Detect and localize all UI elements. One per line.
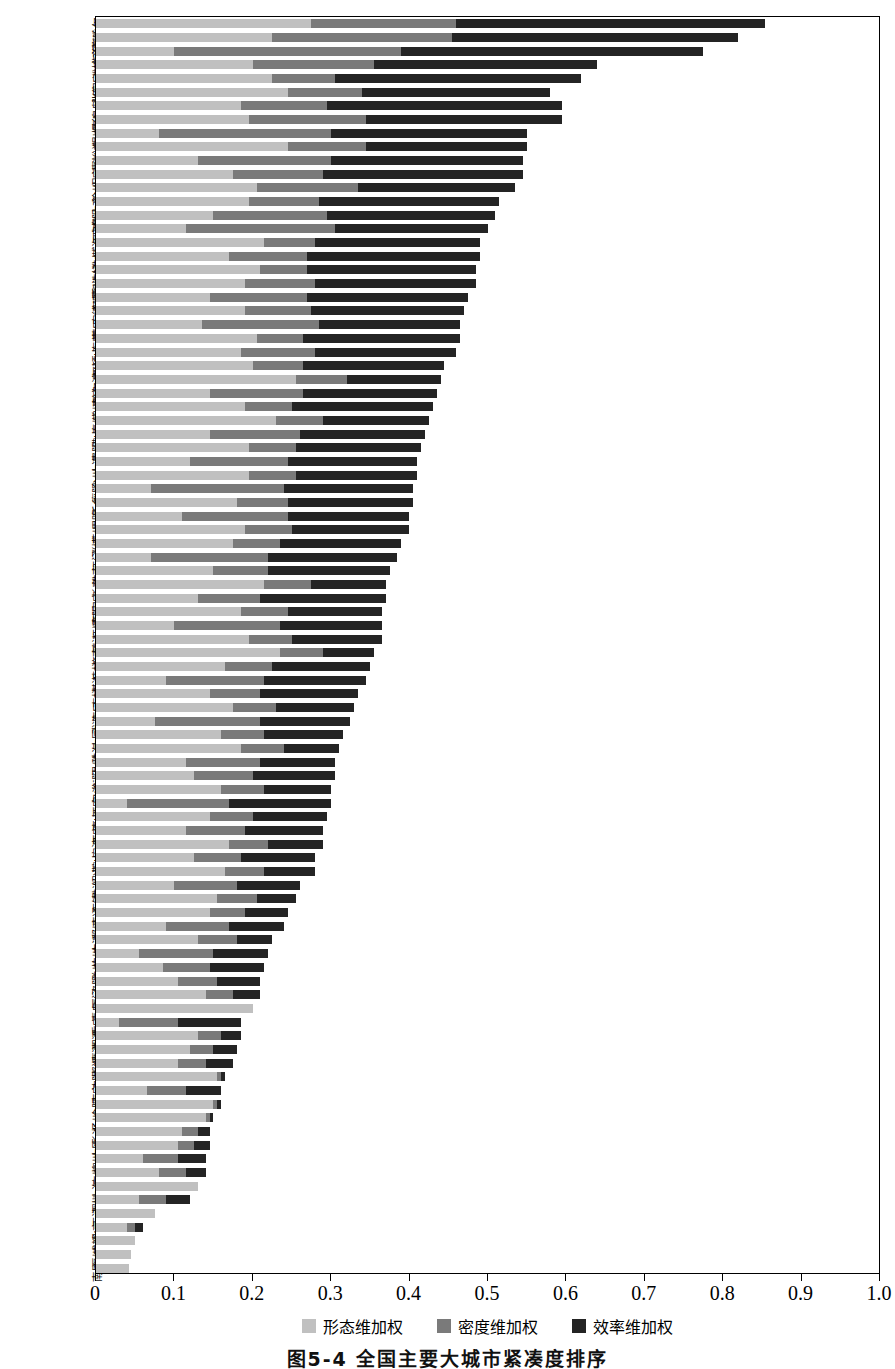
bar-segment-morphology (96, 785, 221, 794)
bar-segment-density (163, 963, 210, 972)
bar-row (96, 33, 738, 42)
bar-segment-morphology (96, 594, 198, 603)
bar-segment-morphology (96, 744, 241, 753)
legend-item: 效率维加权 (572, 1314, 673, 1338)
bar-segment-efficiency (213, 949, 268, 958)
bar-segment-morphology (96, 881, 174, 890)
bar-segment-morphology (96, 607, 241, 616)
bar-segment-density (198, 1031, 221, 1040)
bar-segment-morphology (96, 703, 233, 712)
bar-segment-efficiency (253, 771, 335, 780)
bar-row (96, 1100, 221, 1109)
bar-segment-density (288, 142, 366, 151)
x-axis-tick-label: 0.7 (631, 1282, 656, 1304)
bar-segment-efficiency (229, 799, 331, 808)
x-axis-tick (801, 1274, 802, 1281)
legend-item: 形态维加权 (302, 1314, 403, 1338)
bar-segment-efficiency (335, 74, 582, 83)
legend-label: 密度维加权 (458, 1314, 538, 1338)
bar-row (96, 730, 343, 739)
bar-row (96, 1045, 237, 1054)
bar-segment-density (166, 922, 229, 931)
bar-segment-efficiency (288, 512, 409, 521)
bar-row (96, 416, 429, 425)
bar-segment-morphology (96, 840, 229, 849)
bar-segment-efficiency (186, 1086, 221, 1095)
bar-segment-efficiency (323, 416, 429, 425)
bar-row (96, 580, 386, 589)
bar-segment-density (155, 717, 261, 726)
bar-row (96, 525, 409, 534)
bar-row (96, 74, 581, 83)
bar-segment-morphology (96, 648, 280, 657)
bar-segment-efficiency (284, 744, 339, 753)
bar-segment-density (272, 33, 452, 42)
bar-row (96, 867, 315, 876)
bar-segment-density (127, 799, 229, 808)
bar-segment-efficiency (260, 758, 334, 767)
bar-segment-morphology (96, 1100, 213, 1109)
bars-layer (96, 17, 879, 1273)
bar-segment-efficiency (221, 1031, 241, 1040)
x-axis-tick-label: 0.6 (553, 1282, 578, 1304)
bar-segment-density (264, 238, 315, 247)
bar-segment-density (198, 156, 331, 165)
bar-segment-morphology (96, 730, 221, 739)
bar-segment-efficiency (268, 566, 389, 575)
bar-segment-density (221, 730, 264, 739)
bar-segment-density (178, 977, 217, 986)
bar-segment-morphology (96, 580, 264, 589)
bar-segment-density (233, 170, 323, 179)
bar-segment-density (151, 553, 268, 562)
bar-segment-morphology (96, 19, 311, 28)
bar-segment-density (202, 320, 319, 329)
bar-segment-density (127, 1223, 135, 1232)
bar-row (96, 1018, 241, 1027)
bar-segment-morphology (96, 183, 257, 192)
bar-segment-efficiency (335, 224, 488, 233)
bar-row (96, 1168, 206, 1177)
bar-segment-morphology (96, 758, 186, 767)
bar-segment-density (233, 703, 276, 712)
bar-row (96, 430, 425, 439)
bar-segment-density (210, 689, 261, 698)
bar-segment-efficiency (268, 553, 397, 562)
bar-segment-efficiency (233, 990, 260, 999)
bar-row (96, 320, 460, 329)
bar-segment-morphology (96, 293, 210, 302)
bar-row (96, 963, 264, 972)
bar-row (96, 19, 765, 28)
bar-segment-density (253, 361, 304, 370)
bar-segment-density (311, 19, 456, 28)
bar-segment-efficiency (366, 115, 562, 124)
bar-segment-efficiency (268, 840, 323, 849)
bar-segment-morphology (96, 1045, 190, 1054)
x-axis-tick (173, 1274, 174, 1281)
bar-row (96, 1250, 131, 1259)
bar-segment-density (249, 443, 296, 452)
bar-segment-density (143, 1154, 178, 1163)
bar-segment-morphology (96, 1264, 129, 1273)
bar-row (96, 252, 480, 261)
bar-segment-morphology (96, 416, 276, 425)
bar-row (96, 758, 335, 767)
bar-segment-efficiency (237, 935, 272, 944)
bar-segment-morphology (96, 977, 178, 986)
bar-row (96, 553, 397, 562)
bar-segment-efficiency (276, 703, 354, 712)
bar-segment-efficiency (303, 334, 460, 343)
bar-segment-density (186, 826, 245, 835)
bar-row (96, 129, 527, 138)
bar-segment-density (241, 101, 327, 110)
legend-swatch (437, 1319, 451, 1333)
bar-segment-morphology (96, 484, 151, 493)
bar-segment-density (210, 908, 245, 917)
bar-segment-efficiency (311, 580, 385, 589)
bar-segment-morphology (96, 375, 296, 384)
bar-segment-morphology (96, 1154, 143, 1163)
bar-segment-morphology (96, 621, 174, 630)
bar-row (96, 977, 260, 986)
bar-segment-morphology (96, 1127, 182, 1136)
bar-segment-efficiency (260, 689, 358, 698)
bar-segment-efficiency (331, 156, 523, 165)
